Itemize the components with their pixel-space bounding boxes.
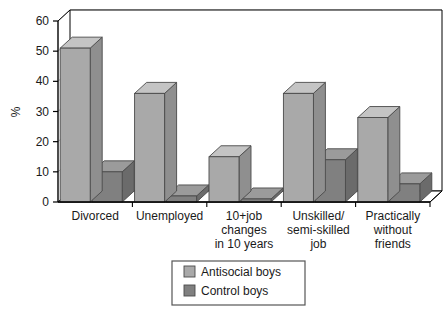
bar-antisocial-3 (283, 82, 325, 202)
x-category-label-0: Divorced (72, 209, 119, 223)
x-category-label-line: 10+job (226, 209, 263, 223)
y-tick-label: 10 (36, 165, 50, 179)
x-category-label-line: Divorced (72, 209, 119, 223)
x-category-label-line: Unskilled/ (292, 209, 345, 223)
legend-swatch-0 (184, 266, 195, 277)
bar-antisocial-4 (358, 107, 400, 202)
x-category-label-line: semi-skilled (287, 223, 350, 237)
x-category-label-line: in 10 years (215, 237, 274, 251)
bar-antisocial-1 (135, 82, 177, 202)
chart-canvas: 0102030405060 DivorcedUnemployed10+jobch… (0, 0, 447, 319)
x-category-label-line: Practically (365, 209, 420, 223)
x-category-label-line: Unemployed (136, 209, 203, 223)
y-axis-title-text: % (9, 106, 23, 117)
bar-antisocial-2 (209, 146, 251, 202)
x-category-label-line: without (373, 223, 413, 237)
y-tick-label: 50 (36, 44, 50, 58)
legend-label-0: Antisocial boys (201, 265, 281, 279)
legend-swatch-1 (184, 285, 195, 296)
x-category-label-line: job (309, 237, 326, 251)
y-tick-label: 0 (42, 195, 49, 209)
legend: Antisocial boysControl boys (172, 261, 305, 305)
y-tick-label: 20 (36, 135, 50, 149)
y-tick-label: 30 (36, 105, 50, 119)
x-category-label-line: changes (221, 223, 266, 237)
bar-antisocial-0 (60, 37, 102, 202)
y-axis-title: % (9, 106, 23, 117)
bar-chart: 0102030405060 DivorcedUnemployed10+jobch… (0, 0, 447, 319)
y-tick-label: 60 (36, 14, 50, 28)
x-category-label-line: friends (375, 237, 411, 251)
y-tick-label: 40 (36, 74, 50, 88)
legend-label-1: Control boys (201, 284, 268, 298)
x-category-label-1: Unemployed (136, 209, 203, 223)
